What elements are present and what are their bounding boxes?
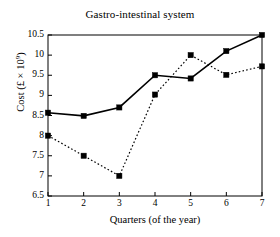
data-point-marker [224,49,229,54]
data-point-marker [259,32,264,37]
data-point-marker [81,113,86,118]
data-point-marker [152,73,157,78]
data-point-marker [45,133,50,138]
data-point-marker [259,64,264,69]
data-point-marker [224,72,229,77]
data-point-marker [117,105,122,110]
data-point-marker [188,53,193,58]
chart-figure: Gastro-intestinal system Cost (£ × 109) … [0,0,280,237]
data-point-marker [45,110,50,115]
data-point-marker [152,92,157,97]
plot-area [0,0,280,237]
data-point-marker [117,173,122,178]
data-point-marker [81,153,86,158]
data-point-marker [188,76,193,81]
